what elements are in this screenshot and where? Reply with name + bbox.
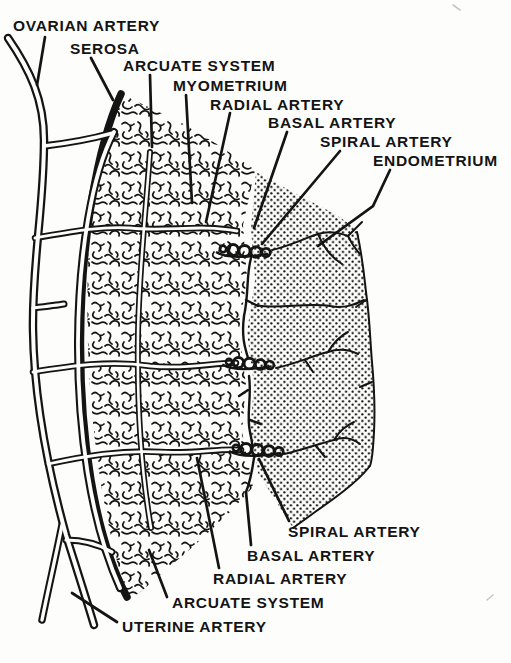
basal-artery-top-label: BASAL ARTERY [268,114,396,131]
serosa-leader-line [91,58,113,100]
myometrium-region [87,94,255,597]
serosa-label: SEROSA [70,40,140,57]
basal-artery-bottom-leader-line [246,492,251,545]
myometrium-label: MYOMETRIUM [173,77,288,94]
ovarian-artery-leader-line [37,37,45,85]
radial-artery-bottom-label: RADIAL ARTERY [213,570,347,587]
spiral-artery-bottom-label: SPIRAL ARTERY [288,523,421,540]
scan-speck-marks [453,5,493,600]
arcuate-system-top-label: ARCUATE SYSTEM [123,57,275,74]
ovarian-artery-label: OVARIAN ARTERY [13,17,160,34]
endometrium-label: ENDOMETRIUM [373,152,498,169]
uterine-artery-label: UTERINE ARTERY [122,618,267,635]
basal-artery-bottom-label: BASAL ARTERY [247,547,375,564]
diagram-page: OVARIAN ARTERY SEROSA ARCUATE SYSTEM MYO… [0,0,511,663]
uterine-vasculature-diagram: OVARIAN ARTERY SEROSA ARCUATE SYSTEM MYO… [0,0,511,663]
spiral-artery-top-label: SPIRAL ARTERY [320,133,453,150]
radial-artery-top-label: RADIAL ARTERY [210,96,344,113]
arcuate-system-bottom-label: ARCUATE SYSTEM [172,594,324,611]
